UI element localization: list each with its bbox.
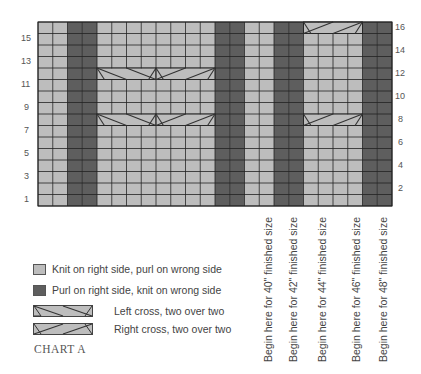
legend-knit-label: Knit on right side, purl on wrong side [52,263,222,275]
row-number-label: 16 [395,22,405,32]
row-number-label: 12 [395,68,405,78]
row-number-label: 9 [24,102,29,112]
purl-swatch-icon [33,285,46,296]
right-cross-icon [33,323,93,335]
row-number-label: 8 [398,114,403,124]
size-start-label: Begin here for 40" finished size [262,217,274,362]
left-cross-icon [33,305,93,317]
row-number-label: 7 [24,125,29,135]
row-number-label: 14 [395,45,405,55]
row-number-label: 1 [24,194,29,204]
row-number-label: 15 [21,33,31,43]
chart-title: CHART A [34,343,86,355]
size-start-label: Begin here for 48" finished size [377,217,389,362]
size-start-label: Begin here for 42" finished size [287,217,299,362]
row-number-label: 5 [24,148,29,158]
row-number-label: 6 [398,137,403,147]
legend-left-cross: Left cross, two over two [33,304,224,318]
row-number-label: 10 [395,91,405,101]
legend-right-cross: Right cross, two over two [33,322,231,336]
row-number-label: 4 [398,160,403,170]
legend-right-cross-label: Right cross, two over two [114,323,231,335]
row-number-label: 2 [398,183,403,193]
legend-purl: Purl on right side, knit on wrong side [33,283,221,297]
legend-knit: Knit on right side, purl on wrong side [33,262,222,276]
knit-swatch-icon [33,264,46,275]
size-start-label: Begin here for 44" finished size [316,217,328,362]
row-number-label: 13 [21,56,31,66]
size-start-label: Begin here for 46" finished size [350,217,362,362]
row-number-label: 11 [21,79,30,89]
legend-purl-label: Purl on right side, knit on wrong side [52,284,221,296]
row-number-label: 3 [24,171,29,181]
legend-left-cross-label: Left cross, two over two [114,305,224,317]
